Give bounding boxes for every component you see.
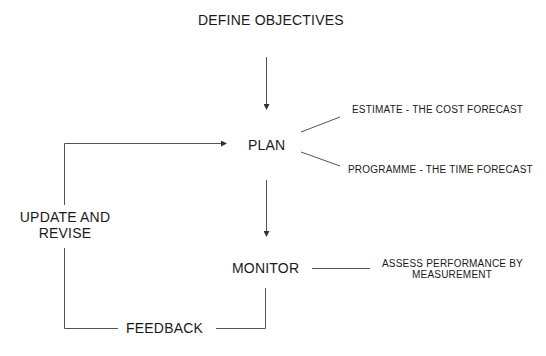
assess-line2: MEASUREMENT: [382, 269, 522, 280]
connector-lines: [0, 0, 546, 356]
node-update-and-revise: UPDATE AND REVISE: [18, 209, 112, 241]
node-monitor: MONITOR: [232, 260, 299, 276]
annotation-programme: PROGRAMME - THE TIME FORECAST: [348, 164, 533, 175]
annotation-estimate: ESTIMATE - THE COST FORECAST: [352, 104, 523, 115]
update-revise-line2: REVISE: [18, 225, 112, 241]
node-plan: PLAN: [248, 137, 285, 153]
node-feedback: FEEDBACK: [126, 320, 203, 336]
branch-plan-estimate: [301, 117, 340, 132]
branch-plan-programme: [301, 152, 340, 166]
annotation-assess-performance: ASSESS PERFORMANCE BY MEASUREMENT: [382, 258, 522, 280]
node-define-objectives: DEFINE OBJECTIVES: [198, 12, 344, 28]
assess-line1: ASSESS PERFORMANCE BY: [382, 258, 522, 269]
update-revise-line1: UPDATE AND: [18, 209, 112, 225]
